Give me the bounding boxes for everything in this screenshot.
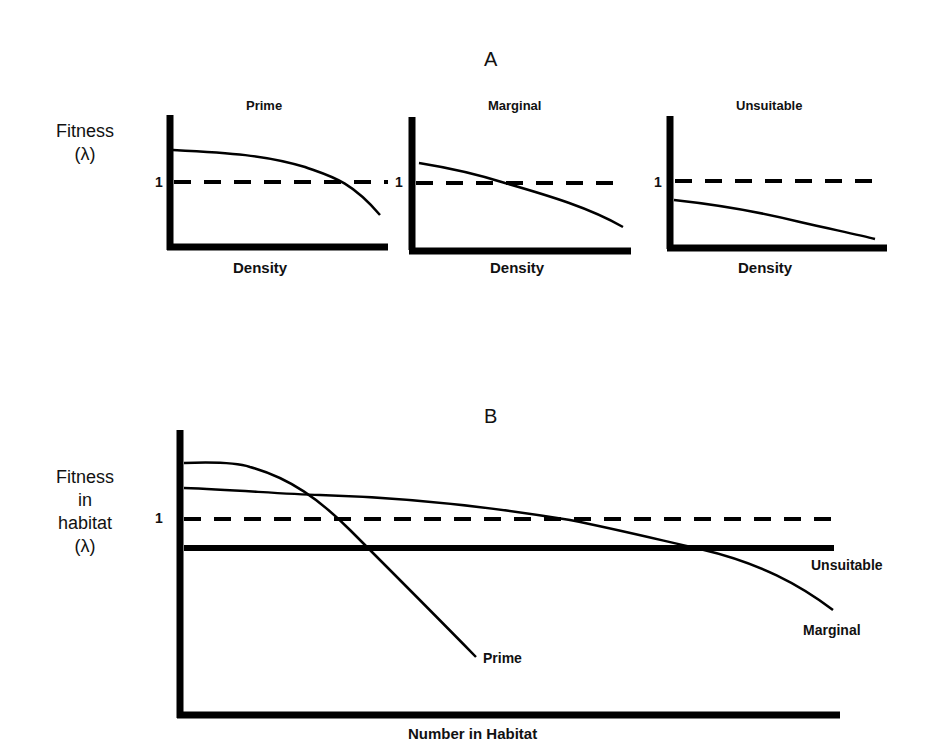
y-label-line: in <box>50 489 120 512</box>
panel-b-letter: B <box>484 405 497 428</box>
x-label-marginal: Density <box>490 259 544 276</box>
subplot-prime <box>167 115 388 250</box>
label-unsuitable: Unsuitable <box>811 557 883 573</box>
subplot-title-marginal: Marginal <box>488 98 541 113</box>
x-label-b: Number in Habitat <box>408 725 537 742</box>
subplot-unsuitable <box>667 116 887 249</box>
label-prime: Prime <box>483 650 522 666</box>
y-label-line: Fitness <box>50 466 120 489</box>
panel-a-y-label: Fitness (λ) <box>50 120 120 166</box>
x-label-prime: Density <box>233 259 287 276</box>
label-marginal: Marginal <box>803 622 861 638</box>
marginal-curve <box>419 163 623 227</box>
panel-b-plot <box>177 430 840 718</box>
panel-a-letter: A <box>484 48 497 71</box>
panel-b-y-label: Fitness in habitat (λ) <box>50 466 120 558</box>
tick-one-unsuitable: 1 <box>654 174 662 190</box>
figure-canvas <box>0 0 934 756</box>
subplot-title-unsuitable: Unsuitable <box>736 98 802 113</box>
tick-one-marginal: 1 <box>395 174 403 190</box>
unsuitable-curve <box>674 200 875 239</box>
y-label-line: Fitness <box>50 120 120 143</box>
subplot-title-prime: Prime <box>246 98 282 113</box>
y-label-line: habitat <box>50 512 120 535</box>
tick-one-b: 1 <box>155 510 163 526</box>
y-label-line: (λ) <box>50 143 120 166</box>
tick-one-prime: 1 <box>155 174 163 190</box>
prime-curve <box>184 462 476 657</box>
x-label-unsuitable: Density <box>738 259 792 276</box>
subplot-marginal <box>409 117 631 251</box>
y-label-line: (λ) <box>50 535 120 558</box>
